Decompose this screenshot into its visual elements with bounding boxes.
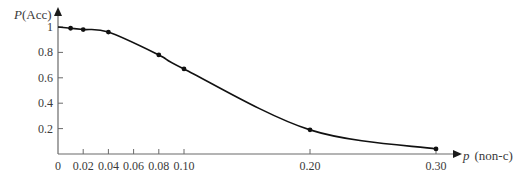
chart-canvas: 00.020.040.060.080.100.200.300.20.40.60.… [0,0,522,180]
x-tick-label: 0.06 [123,159,144,173]
x-tick-label: 0.10 [174,159,195,173]
x-tick-label: 0.08 [148,159,169,173]
x-tick-label: 0.02 [73,159,94,173]
data-point [81,27,86,32]
data-point [308,127,313,132]
x-axis-label: p(non-c) [462,148,513,163]
oc-curve-chart: 00.020.040.060.080.100.200.300.20.40.60.… [0,0,522,180]
y-axis-label: P(Acc) [13,7,52,22]
y-tick-label: 0.2 [38,122,53,136]
y-tick-label: 0.8 [38,45,53,59]
x-tick-label: 0.04 [98,159,119,173]
ticks: 00.020.040.060.080.100.200.300.20.40.60.… [38,20,447,173]
data-point [434,147,439,152]
y-axis-arrow-icon [54,7,62,16]
y-tick-label: 0.6 [38,71,53,85]
data-point [106,30,111,35]
oc-curve-line [58,27,436,149]
y-tick-label: 0.4 [38,96,53,110]
x-tick-label: 0 [55,159,61,173]
data-point [68,26,73,31]
curve [58,27,436,149]
data-point [156,53,161,58]
data-markers [68,26,438,151]
x-tick-label: 0.30 [426,159,447,173]
y-tick-label: 1 [47,20,53,34]
x-axis-arrow-icon [453,150,462,158]
data-point [182,67,187,72]
x-tick-label: 0.20 [300,159,321,173]
axes [54,7,462,158]
